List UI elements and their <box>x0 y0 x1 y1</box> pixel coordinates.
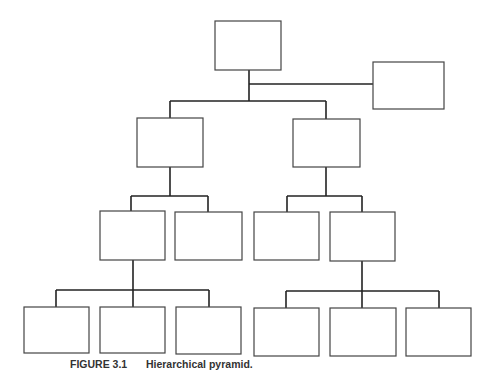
node-l3-e <box>330 308 396 356</box>
node-l2-c <box>254 212 319 260</box>
node-l3-b <box>100 307 165 353</box>
node-l2-a <box>100 211 165 260</box>
figure-title: Hierarchical pyramid. <box>146 358 253 370</box>
node-l1-left <box>137 118 203 167</box>
node-root <box>215 21 281 70</box>
node-l2-b <box>175 212 242 260</box>
figure-label: FIGURE 3.1 <box>70 358 143 370</box>
node-l3-a <box>24 307 89 353</box>
node-staff <box>373 62 444 109</box>
node-l1-right <box>293 119 360 167</box>
node-l3-d <box>254 308 319 356</box>
nodes <box>24 21 471 356</box>
hierarchy-diagram <box>0 0 484 386</box>
figure-caption: FIGURE 3.1 Hierarchical pyramid. <box>70 358 253 370</box>
node-l3-f <box>406 308 471 356</box>
node-l3-c <box>176 307 241 354</box>
node-l2-d <box>330 212 395 261</box>
